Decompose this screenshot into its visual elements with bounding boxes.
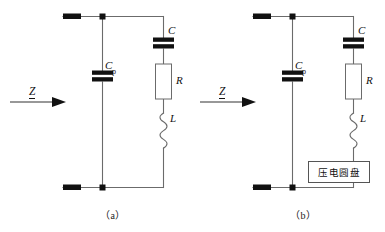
- impedance-arrow-group: [10, 97, 256, 107]
- inductor-label-l-b: L: [360, 113, 366, 124]
- junction-dot-top-a: [100, 14, 106, 20]
- impedance-label-a: Z: [29, 86, 35, 99]
- resistor-label-r-b: R: [366, 75, 373, 86]
- junction-dot-bottom-b: [290, 185, 296, 191]
- impedance-label-b: Z: [219, 86, 225, 99]
- junction-dot-top-b: [290, 14, 296, 20]
- capacitor-plate-c-upper-a: [153, 38, 174, 42]
- piezo-disc-block-b: 压电圆盘: [308, 161, 370, 183]
- resistor-label-r-a: R: [176, 75, 183, 86]
- inductor-coil-a: [160, 113, 167, 148]
- capacitor-label-c-b: C: [358, 25, 365, 36]
- terminal-stub-bottom-b: [253, 185, 271, 191]
- schematic-vector-layer: [0, 0, 385, 232]
- capacitor-plate-c-lower-a: [153, 44, 174, 48]
- impedance-arrow-head-a: [52, 97, 66, 107]
- capacitor-plate-c-lower-b: [343, 44, 364, 48]
- capacitor-plate-cp-lower-a: [92, 77, 113, 81]
- junction-dot-bottom-a: [100, 185, 106, 191]
- capacitor-label-cp-a-sub: p: [112, 67, 116, 76]
- inductor-label-l-a: L: [170, 113, 176, 124]
- capacitor-plate-c-upper-b: [343, 38, 364, 42]
- capacitor-label-cp-b: Cp: [295, 60, 306, 74]
- capacitor-label-c-a: C: [168, 25, 175, 36]
- terminal-stub-bottom-a: [63, 185, 81, 191]
- panel-caption-b: （b）: [290, 207, 317, 222]
- terminal-stub-top-b: [253, 14, 271, 20]
- terminal-stub-top-a: [63, 14, 81, 20]
- impedance-arrow-head-b: [242, 97, 256, 107]
- panel-caption-a: （a）: [100, 207, 126, 222]
- capacitor-label-cp-b-sub: p: [302, 67, 306, 76]
- capacitor-label-cp-a: Cp: [105, 60, 116, 74]
- inductor-coil-b: [350, 113, 357, 148]
- capacitor-plate-cp-lower-b: [282, 77, 303, 81]
- figure-canvas: Z Cp C R L （a） Z Cp C R L 压电圆盘 （b）: [0, 0, 385, 232]
- resistor-body-b: [346, 64, 362, 99]
- resistor-body-a: [156, 64, 172, 99]
